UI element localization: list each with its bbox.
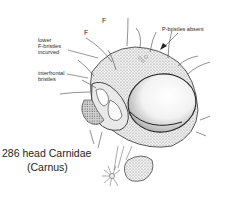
figure-caption-genus: (Carnus) [27, 161, 68, 174]
palp [124, 156, 153, 181]
fly-head-diagram: F F lower F-bristles incurved interfront… [0, 0, 232, 209]
label-f-lower: F [84, 30, 88, 36]
label-lower-f-bristles: lower F-bristles incurved [38, 37, 61, 56]
label-p-bristles-absent: P-bristles absent [162, 26, 204, 32]
label-f-upper: F [102, 18, 106, 24]
label-interfrontal-bristles: interfrontal bristles [38, 70, 64, 82]
arrowhead [160, 43, 167, 50]
figure-caption-title: 286 head Carnidae [2, 147, 91, 160]
